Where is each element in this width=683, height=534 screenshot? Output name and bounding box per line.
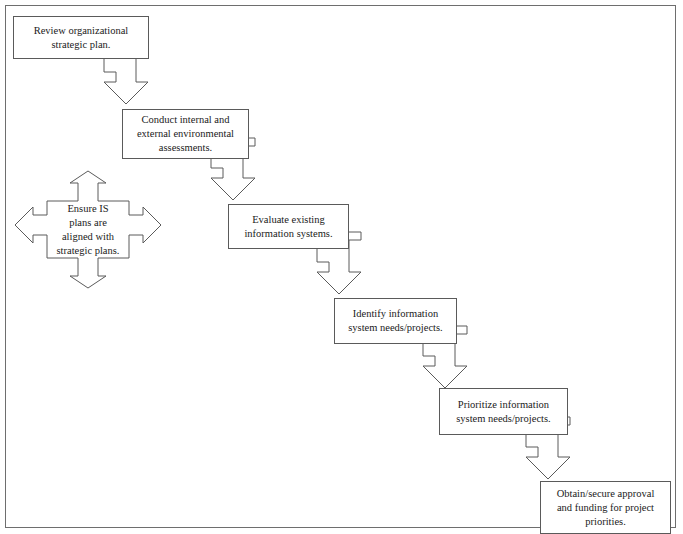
node-prioritize-needs: Prioritize information system needs/proj… (439, 388, 568, 435)
node-evaluate-existing-systems: Evaluate existing information systems. (228, 204, 349, 249)
node-identify-needs: Identify information system needs/projec… (334, 298, 457, 344)
node-text-obtain-approval-funding: Obtain/secure approval and funding for p… (552, 487, 660, 529)
node-conduct-assessments: Conduct internal and external environmen… (122, 109, 249, 159)
node-text-evaluate-existing-systems: Evaluate existing information systems. (239, 213, 337, 241)
four-way-arrow-shape (15, 171, 161, 288)
node-text-conduct-assessments: Conduct internal and external environmen… (132, 113, 239, 155)
diagram-canvas: Ensure IS plans are aligned with strateg… (0, 0, 683, 534)
node-review-strategic-plan: Review organizational strategic plan. (13, 16, 149, 59)
node-ensure-is-alignment: Ensure IS plans are aligned with strateg… (15, 171, 161, 288)
node-text-identify-needs: Identify information system needs/projec… (343, 307, 447, 335)
node-obtain-approval-funding: Obtain/secure approval and funding for p… (540, 481, 671, 534)
node-text-prioritize-needs: Prioritize information system needs/proj… (451, 398, 555, 426)
node-text-review-strategic-plan: Review organizational strategic plan. (29, 24, 134, 52)
